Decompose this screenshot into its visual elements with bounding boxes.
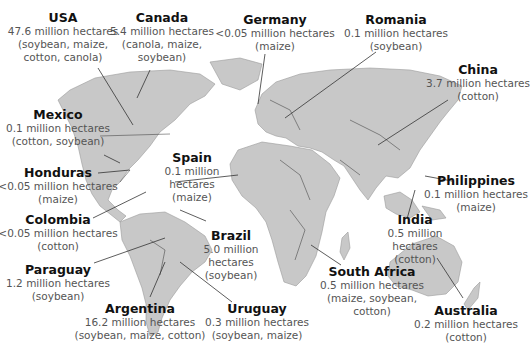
country-crops: (cotton) — [426, 90, 530, 103]
label-south-africa: South Africa 0.5 million hectares (maize… — [320, 264, 424, 318]
country-area: 0.1 million hectares — [344, 27, 448, 40]
label-colombia: Colombia <0.05 million hectares (cotton) — [0, 212, 118, 253]
country-name: China — [426, 62, 530, 77]
country-crops: (soybean) — [203, 269, 258, 282]
country-crops: (maize) — [0, 193, 118, 206]
country-name: Mexico — [6, 107, 110, 122]
label-philippines: Philippines 0.1 million hectares (maize) — [424, 173, 528, 214]
country-name: Argentina — [75, 301, 206, 316]
country-name: Uruguay — [205, 301, 309, 316]
label-spain: Spain 0.1 million hectares (maize) — [164, 150, 219, 204]
country-crops: (canola, maize, — [110, 38, 214, 51]
country-area: <0.05 million hectares — [0, 227, 118, 240]
country-crops: (soybean, maize, — [8, 38, 119, 51]
label-mexico: Mexico 0.1 million hectares (cotton, soy… — [6, 107, 110, 148]
country-area: 0.2 million hectares — [414, 318, 518, 331]
country-name: Australia — [414, 303, 518, 318]
country-name: Romania — [344, 12, 448, 27]
country-area: 5.4 million hectares — [110, 25, 214, 38]
label-india: India 0.5 million hectares (cotton) — [387, 212, 442, 266]
country-crops: (soybean) — [344, 40, 448, 53]
label-germany: Germany <0.05 million hectares (maize) — [215, 12, 334, 53]
country-area: <0.05 million hectares — [0, 180, 118, 193]
label-honduras: Honduras <0.05 million hectares (maize) — [0, 165, 118, 206]
country-crops: (cotton) — [0, 240, 118, 253]
label-australia: Australia 0.2 million hectares (cotton) — [414, 303, 518, 344]
country-area: 0.5 million — [387, 227, 442, 240]
country-crops: (soybean, maize) — [205, 329, 309, 342]
country-name: USA — [8, 10, 119, 25]
country-name: India — [387, 212, 442, 227]
country-area-2: hectares — [203, 256, 258, 269]
country-name: Honduras — [0, 165, 118, 180]
label-uruguay: Uruguay 0.3 million hectares (soybean, m… — [205, 301, 309, 342]
country-area: 1.2 million hectares — [6, 277, 110, 290]
country-area-2: hectares — [164, 178, 219, 191]
country-crops: (maize) — [164, 191, 219, 204]
country-crops: (maize) — [215, 40, 334, 53]
country-name: Philippines — [424, 173, 528, 188]
label-argentina: Argentina 16.2 million hectares (soybean… — [75, 301, 206, 342]
country-name: South Africa — [320, 264, 424, 279]
greenland-landmass — [210, 58, 262, 90]
country-crops: (maize, soybean, — [320, 292, 424, 305]
country-area: 0.5 million hectares — [320, 279, 424, 292]
country-crops: soybean) — [110, 51, 214, 64]
country-crops: cotton, canola) — [8, 51, 119, 64]
country-area: <0.05 million hectares — [215, 27, 334, 40]
country-area: 0.3 million hectares — [205, 316, 309, 329]
country-crops: (soybean, maize, cotton) — [75, 329, 206, 342]
country-name: Brazil — [203, 228, 258, 243]
country-area: 3.7 million hectares — [426, 77, 530, 90]
country-area: 5.0 million — [203, 243, 258, 256]
country-name: Colombia — [0, 212, 118, 227]
country-area: 16.2 million hectares — [75, 316, 206, 329]
label-usa: USA 47.6 million hectares (soybean, maiz… — [8, 10, 119, 64]
country-crops: cotton) — [320, 305, 424, 318]
label-brazil: Brazil 5.0 million hectares (soybean) — [203, 228, 258, 282]
country-name: Germany — [215, 12, 334, 27]
label-paraguay: Paraguay 1.2 million hectares (soybean) — [6, 262, 110, 303]
country-name: Canada — [110, 10, 214, 25]
country-area: 47.6 million hectares — [8, 25, 119, 38]
country-name: Paraguay — [6, 262, 110, 277]
country-area: 0.1 million — [164, 165, 219, 178]
label-canada: Canada 5.4 million hectares (canola, mai… — [110, 10, 214, 64]
madagascar-landmass — [340, 232, 350, 260]
label-romania: Romania 0.1 million hectares (soybean) — [344, 12, 448, 53]
label-china: China 3.7 million hectares (cotton) — [426, 62, 530, 103]
country-area: 0.1 million hectares — [6, 122, 110, 135]
country-name: Spain — [164, 150, 219, 165]
country-crops: (cotton) — [414, 331, 518, 344]
country-area: 0.1 million hectares — [424, 188, 528, 201]
country-area-2: hectares — [387, 240, 442, 253]
country-crops: (cotton, soybean) — [6, 135, 110, 148]
